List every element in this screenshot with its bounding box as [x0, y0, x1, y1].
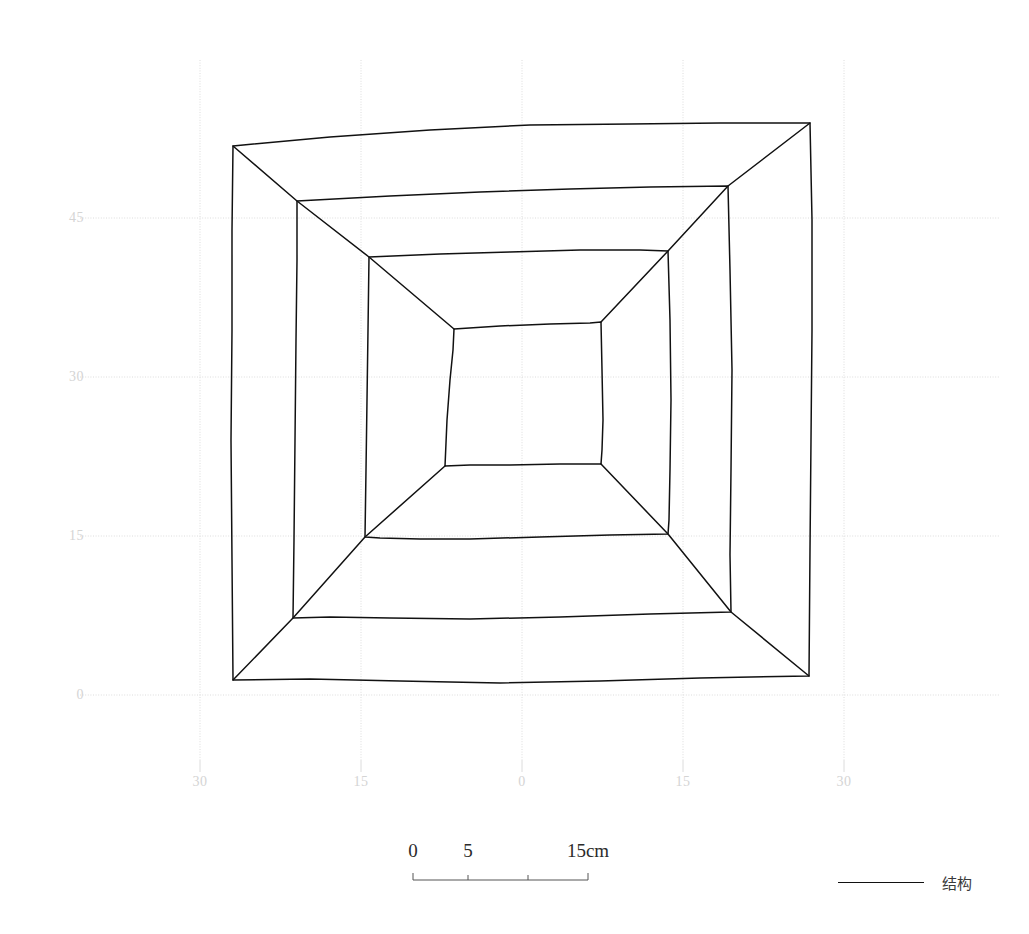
y-axis-tick-label-2: 15 — [69, 528, 84, 544]
legend: 结构 — [838, 872, 972, 893]
ridge-bottom-right — [601, 464, 809, 676]
plan-drawing-canvas — [0, 0, 1029, 934]
scale-bar-label-1: 5 — [463, 840, 473, 862]
axis-tick-marks — [200, 760, 844, 772]
x-axis-tick-label-3: 15 — [676, 774, 691, 790]
grid-lines — [80, 60, 1000, 760]
scale-bar-label-2: 15cm — [567, 840, 609, 862]
scale-bar-label-0: 0 — [408, 840, 418, 862]
x-axis-tick-label-1: 15 — [354, 774, 369, 790]
y-axis-tick-label-1: 30 — [69, 369, 84, 385]
x-axis-tick-label-0: 30 — [193, 774, 208, 790]
legend-item-label: 结构 — [942, 872, 972, 893]
inner-square — [445, 322, 603, 466]
y-axis-tick-label-0: 45 — [69, 210, 84, 226]
x-axis-tick-label-2: 0 — [518, 774, 526, 790]
x-axis-tick-label-4: 30 — [837, 774, 852, 790]
y-axis-tick-label-3: 0 — [77, 687, 85, 703]
plan-drawing-figure: 4530150 301501530 0515cm 结构 — [0, 0, 1029, 934]
scale-bar: 0515cm — [405, 840, 635, 890]
ridge-bottom-left — [233, 466, 445, 680]
ridge-top-right — [601, 123, 810, 322]
legend-line-swatch — [838, 882, 924, 883]
ridge-top-left — [233, 146, 454, 329]
